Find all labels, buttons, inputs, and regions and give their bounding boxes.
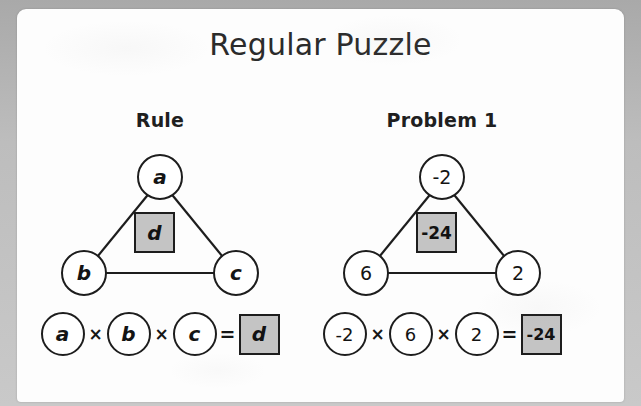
- rule-triangle-diagram: a b c d: [25, 154, 295, 299]
- multiply-icon: ×: [85, 324, 107, 344]
- image-canvas: Regular Puzzle Rule a b c d a × b × c: [0, 0, 641, 406]
- problem-1-equation-term-1: -2: [323, 312, 367, 356]
- rule-center-box: d: [134, 212, 175, 253]
- problem-1-node-left: 6: [343, 250, 389, 296]
- problem-1-equation: -2 × 6 × 2 = -24: [307, 305, 577, 363]
- multiply-icon: ×: [433, 324, 455, 344]
- rule-equation: a × b × c = d: [25, 305, 295, 363]
- page-title: Regular Puzzle: [17, 27, 624, 62]
- problem-1-equation-term-3: 2: [455, 312, 499, 356]
- equals-icon: =: [499, 323, 521, 345]
- rule-node-right: c: [213, 250, 259, 296]
- panel-problem-1: Problem 1 -2 6 2 -24 -2 × 6 × 2 = -24: [307, 109, 577, 379]
- panel-problem-1-heading: Problem 1: [307, 109, 577, 131]
- equals-icon: =: [217, 323, 239, 345]
- panel-rule: Rule a b c d a × b × c = d: [25, 109, 295, 379]
- rule-equation-term-3: c: [173, 312, 217, 356]
- rule-equation-term-2: b: [107, 312, 151, 356]
- panel-rule-heading: Rule: [25, 109, 295, 131]
- worksheet-card: Regular Puzzle Rule a b c d a × b × c: [17, 9, 624, 402]
- rule-node-left: b: [61, 250, 107, 296]
- problem-1-node-right: 2: [495, 250, 541, 296]
- problem-1-node-top: -2: [419, 154, 465, 200]
- problem-1-equation-term-2: 6: [389, 312, 433, 356]
- problem-1-center-box: -24: [416, 212, 457, 253]
- multiply-icon: ×: [151, 324, 173, 344]
- problem-1-equation-result: -24: [521, 314, 562, 355]
- rule-equation-result: d: [239, 314, 280, 355]
- problem-1-triangle-diagram: -2 6 2 -24: [307, 154, 577, 299]
- rule-node-top: a: [137, 154, 183, 200]
- rule-equation-term-1: a: [41, 312, 85, 356]
- multiply-icon: ×: [367, 324, 389, 344]
